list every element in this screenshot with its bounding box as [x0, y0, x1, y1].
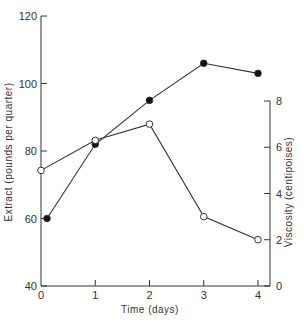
x-tick-label: 4: [255, 289, 261, 301]
viscosity-line: [41, 124, 258, 240]
viscosity-point: [92, 137, 99, 144]
y2-tick-label: 0: [276, 280, 282, 292]
y-tick-label: 40: [25, 280, 37, 292]
y2-axis-title: Viscosity (centipoises): [283, 137, 294, 247]
y2-tick-label: 4: [276, 188, 282, 200]
y-axis-title: Extract (pounds per quarter): [3, 82, 14, 221]
viscosity-point: [255, 236, 262, 243]
tick-labels: 4060801001200246801234: [19, 10, 282, 301]
extract-point: [200, 60, 207, 67]
x-axis-title: Time (days): [121, 304, 179, 315]
extract-point: [255, 70, 262, 77]
x-tick-label: 0: [38, 289, 44, 301]
viscosity-point: [146, 121, 153, 128]
y2-tick-label: 8: [276, 95, 282, 107]
y2-tick-label: 6: [276, 141, 282, 153]
chart: 4060801001200246801234 Time (days) Extra…: [0, 0, 304, 325]
y-tick-label: 60: [25, 213, 37, 225]
x-tick-label: 1: [92, 289, 98, 301]
viscosity-point: [200, 213, 207, 220]
x-tick-label: 3: [201, 289, 207, 301]
y-tick-label: 80: [25, 145, 37, 157]
y2-tick-label: 2: [276, 234, 282, 246]
extract-line: [47, 63, 258, 218]
y-tick-label: 100: [19, 78, 37, 90]
extract-point: [146, 97, 153, 104]
viscosity-point: [38, 167, 45, 174]
x-tick-label: 2: [146, 289, 152, 301]
data-series: [38, 60, 262, 243]
extract-point: [44, 215, 51, 222]
y-tick-label: 120: [19, 10, 37, 22]
